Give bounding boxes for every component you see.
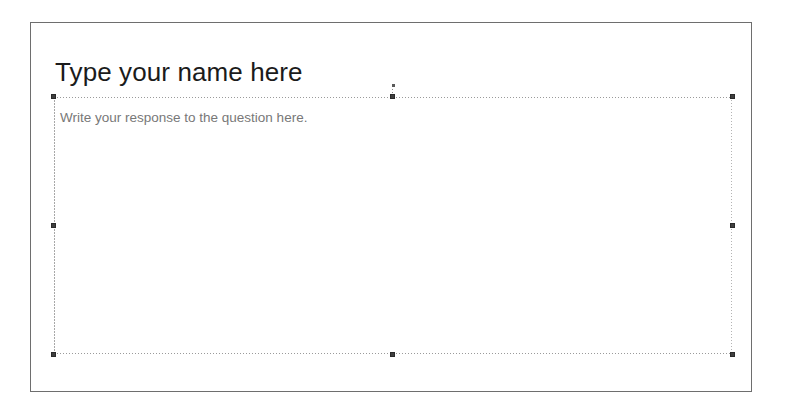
resize-handle-middle-right[interactable]	[730, 223, 735, 228]
body-placeholder[interactable]: Write your response to the question here…	[54, 97, 732, 354]
resize-handle-bottom-left[interactable]	[51, 352, 56, 357]
title-placeholder[interactable]: Type your name here	[55, 55, 655, 95]
resize-handle-bottom-center[interactable]	[390, 352, 395, 357]
resize-handle-middle-left[interactable]	[51, 223, 56, 228]
resize-handle-top-left[interactable]	[51, 94, 56, 99]
resize-handle-bottom-right[interactable]	[730, 352, 735, 357]
resize-handle-top-center[interactable]	[390, 94, 395, 99]
title-placeholder-text: Type your name here	[55, 55, 655, 89]
resize-handle-top-right[interactable]	[730, 94, 735, 99]
body-placeholder-prompt[interactable]: Write your response to the question here…	[60, 109, 724, 127]
slide-page[interactable]: Type your name here Write your response …	[30, 22, 752, 392]
rotation-handle-icon[interactable]	[392, 84, 395, 87]
editor-canvas: Type your name here Write your response …	[0, 0, 786, 412]
